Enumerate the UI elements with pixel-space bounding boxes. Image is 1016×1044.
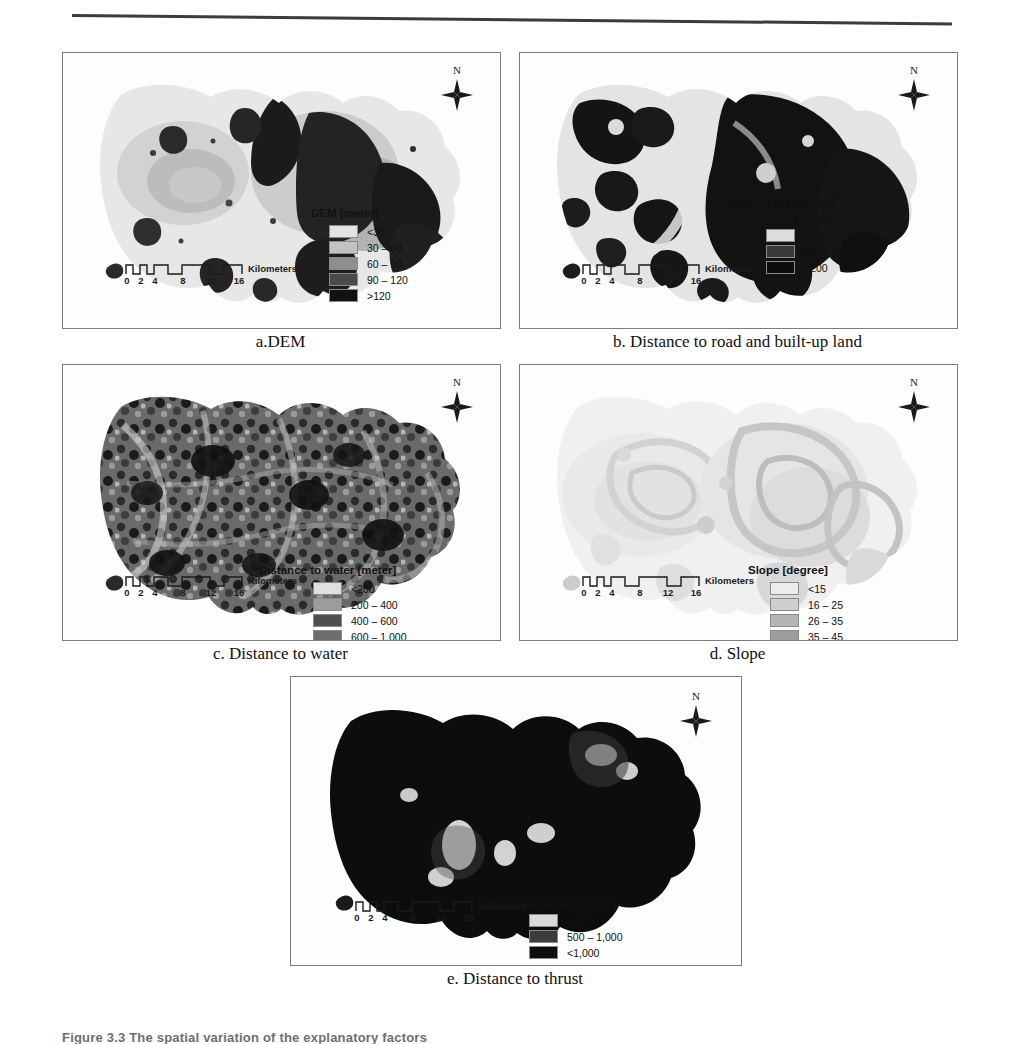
north-arrow-a: N bbox=[440, 65, 474, 115]
legend-a-dem: DEM [meter] <30 30 – 60 60 – 90 90 – 120 bbox=[311, 206, 408, 305]
legend-label: <1,000 bbox=[567, 947, 599, 959]
scale-bar-graphic-d bbox=[582, 574, 700, 587]
header-rule bbox=[72, 14, 952, 25]
legend-items-d: <15 16 – 25 26 – 35 35 – 45 >45 bbox=[770, 582, 843, 641]
legend-item: >200 bbox=[766, 261, 851, 274]
scale-bar-ticks-c: 0 2 4 8 12 16 bbox=[125, 587, 243, 599]
scale-bar-unit-a: Kilometers bbox=[248, 263, 297, 275]
legend-items-a: <30 30 – 60 60 – 90 90 – 120 >120 bbox=[329, 225, 408, 302]
legend-items-e: <500 500 – 1,000 <1,000 bbox=[529, 914, 622, 959]
legend-items-c: <200 200 – 400 400 – 600 600 – 1,000 >10… bbox=[313, 582, 406, 641]
legend-item: <30 bbox=[329, 225, 408, 238]
scale-bar-graphic-a bbox=[125, 262, 243, 275]
legend-item: 400 – 600 bbox=[313, 614, 406, 627]
legend-title-b: Distance to road and built-up land [mete… bbox=[722, 196, 851, 224]
legend-item: <1,000 bbox=[529, 946, 622, 959]
legend-swatch bbox=[766, 245, 795, 258]
legend-swatch bbox=[313, 598, 342, 611]
legend-label: 60 – 90 bbox=[367, 258, 402, 270]
scale-bar-d: Kilometers 0 2 4 8 12 16 bbox=[582, 574, 754, 599]
legend-label: <200 bbox=[351, 583, 375, 595]
legend-swatch bbox=[329, 225, 358, 238]
legend-label: 600 – 1,000 bbox=[351, 631, 406, 642]
compass-star-icon bbox=[679, 704, 713, 738]
legend-swatch bbox=[766, 229, 795, 242]
map-panel-c-distance-water[interactable]: N Kilometers 0 2 4 8 12 16 bbox=[62, 364, 501, 641]
legend-label: 400 – 600 bbox=[351, 615, 398, 627]
legend-swatch bbox=[313, 630, 342, 641]
legend-swatch bbox=[529, 914, 558, 927]
page-header bbox=[0, 0, 1016, 34]
legend-title-c: Distance to water [meter] bbox=[259, 563, 406, 577]
legend-label: 100 – 200 bbox=[804, 246, 851, 258]
panel-caption-d: d. Slope bbox=[519, 644, 956, 664]
legend-swatch bbox=[770, 630, 799, 641]
map-panel-b-distance-road[interactable]: N Kilometers 0 2 4 8 12 16 bbox=[519, 52, 958, 329]
panel-caption-c: c. Distance to water bbox=[62, 644, 499, 664]
map-panel-d-slope[interactable]: N Kilometers 0 2 4 8 12 16 bbox=[519, 364, 958, 641]
legend-label: <100 bbox=[804, 230, 828, 242]
legend-swatch bbox=[770, 598, 799, 611]
legend-d-slope: Slope [degree] <15 16 – 25 26 – 35 35 – … bbox=[748, 563, 843, 641]
legend-item: 200 – 400 bbox=[313, 598, 406, 611]
legend-swatch bbox=[313, 614, 342, 627]
scale-bar-ticks-d: 0 2 4 8 12 16 bbox=[582, 587, 700, 599]
legend-swatch bbox=[529, 946, 558, 959]
scale-bar-ticks-a: 0 2 4 8 12 16 bbox=[125, 275, 243, 287]
north-arrow-b: N bbox=[897, 65, 931, 115]
legend-item: 600 – 1,000 bbox=[313, 630, 406, 641]
legend-label: 500 – 1,000 bbox=[567, 931, 622, 943]
scale-bar-ticks-e: 0 2 4 8 12 16 bbox=[355, 912, 473, 924]
legend-label: >120 bbox=[367, 290, 391, 302]
legend-label: 26 – 35 bbox=[808, 615, 843, 627]
compass-star-icon bbox=[897, 390, 931, 424]
scale-bar-a: Kilometers 0 2 4 8 12 16 bbox=[125, 262, 297, 287]
scale-bar-graphic-c bbox=[125, 574, 243, 587]
legend-swatch bbox=[770, 582, 799, 595]
figure-caption: Figure 3.3 The spatial variation of the … bbox=[62, 1030, 942, 1044]
legend-label: 30 – 60 bbox=[367, 242, 402, 254]
compass-star-icon bbox=[440, 78, 474, 112]
legend-b-distance-road: Distance to road and built-up land [mete… bbox=[722, 196, 851, 277]
north-label-a: N bbox=[440, 64, 474, 76]
panel-caption-e: e. Distance to thrust bbox=[290, 969, 740, 989]
legend-item: 100 – 200 bbox=[766, 245, 851, 258]
legend-item: 26 – 35 bbox=[770, 614, 843, 627]
legend-label: <500 bbox=[567, 915, 591, 927]
legend-item: 30 – 60 bbox=[329, 241, 408, 254]
legend-item: 16 – 25 bbox=[770, 598, 843, 611]
legend-swatch bbox=[766, 261, 795, 274]
scale-bar-graphic-b bbox=[582, 262, 700, 275]
legend-e-distance-thrust: Distance to thrust [meter] <500 500 – 1,… bbox=[477, 895, 622, 962]
map-panel-a-dem[interactable]: N Kilometers 0 2 4 8 12 16 bbox=[62, 52, 501, 329]
compass-star-icon bbox=[897, 78, 931, 112]
legend-title-a: DEM [meter] bbox=[311, 206, 408, 220]
legend-item: 35 – 45 bbox=[770, 630, 843, 641]
legend-label: >200 bbox=[804, 262, 828, 274]
map-panel-e-distance-thrust[interactable]: N Kilometers 0 2 4 8 12 16 bbox=[290, 676, 742, 966]
scale-bar-graphic-e bbox=[355, 899, 473, 912]
legend-item: >120 bbox=[329, 289, 408, 302]
legend-items-b: <100 100 – 200 >200 bbox=[766, 229, 851, 274]
legend-label: <15 bbox=[808, 583, 826, 595]
legend-swatch bbox=[329, 289, 358, 302]
legend-swatch bbox=[529, 930, 558, 943]
legend-swatch bbox=[329, 257, 358, 270]
north-arrow-e: N bbox=[679, 691, 713, 741]
north-label-e: N bbox=[679, 690, 713, 702]
scale-bar-ticks-b: 0 2 4 8 12 16 bbox=[582, 275, 700, 287]
legend-swatch bbox=[770, 614, 799, 627]
legend-label: <30 bbox=[367, 226, 385, 238]
legend-swatch bbox=[313, 582, 342, 595]
legend-title-d: Slope [degree] bbox=[748, 563, 843, 577]
north-label-d: N bbox=[897, 376, 931, 388]
north-label-b: N bbox=[897, 64, 931, 76]
north-arrow-c: N bbox=[440, 377, 474, 427]
legend-title-e: Distance to thrust [meter] bbox=[477, 895, 622, 909]
legend-label: 200 – 400 bbox=[351, 599, 398, 611]
north-arrow-d: N bbox=[897, 377, 931, 427]
legend-item: 90 – 120 bbox=[329, 273, 408, 286]
legend-label: 35 – 45 bbox=[808, 631, 843, 642]
north-label-c: N bbox=[440, 376, 474, 388]
legend-item: 60 – 90 bbox=[329, 257, 408, 270]
